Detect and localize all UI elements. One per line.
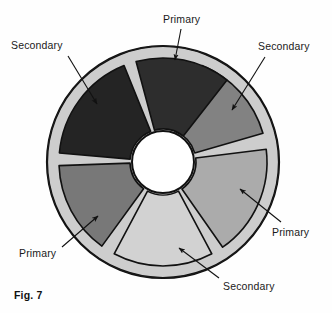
figure-container: Primary Secondary Secondary Primary Prim… xyxy=(0,0,332,313)
callout-label-secondary-bottom: Secondary xyxy=(223,281,275,292)
callout-label-secondary-upper-left: Secondary xyxy=(11,40,63,51)
callout-label-primary-top: Primary xyxy=(163,14,200,25)
callout-label-secondary-upper-right: Secondary xyxy=(258,41,310,52)
callout-label-primary-lower-right: Primary xyxy=(272,227,309,238)
callout-label-primary-lower-left: Primary xyxy=(19,248,56,259)
figure-caption: Fig. 7 xyxy=(14,290,43,301)
disc-hub-bore xyxy=(132,131,194,193)
